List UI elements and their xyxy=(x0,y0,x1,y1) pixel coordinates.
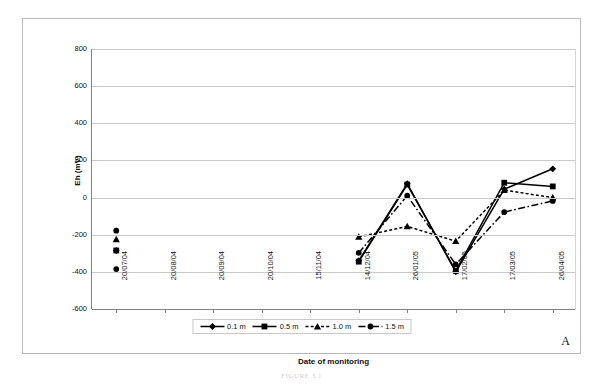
data-point-square xyxy=(404,182,410,188)
legend-swatch-circle xyxy=(357,322,383,331)
data-point-diamond xyxy=(549,165,556,172)
x-tick-mark xyxy=(553,309,554,313)
data-point-triangle xyxy=(404,223,411,229)
data-point-square xyxy=(501,180,507,186)
x-tick-label: 17/03/05 xyxy=(508,251,517,315)
legend-label: 1.5 m xyxy=(385,322,404,331)
chart-legend: 0.1 m0.5 m1.0 m1.5 m xyxy=(192,319,411,334)
x-tick-mark xyxy=(456,309,457,313)
x-tick-label: 20/09/04 xyxy=(217,251,226,315)
x-tick-mark xyxy=(359,309,360,313)
y-tick-label: 400 xyxy=(23,118,87,127)
series-05m xyxy=(113,180,555,274)
legend-label: 1.0 m xyxy=(333,322,352,331)
legend-item: 0.1 m xyxy=(199,322,246,331)
gridline--200 xyxy=(92,235,575,236)
x-tick-label: 26/01/05 xyxy=(411,251,420,315)
y-tick-label: -600 xyxy=(23,304,87,313)
data-point-square xyxy=(113,248,119,254)
x-tick-label: 14/12/04 xyxy=(363,251,372,315)
legend-swatch-triangle xyxy=(305,322,331,331)
data-point-triangle xyxy=(314,323,321,329)
figure-container: Eh (mV) 8006004002000-200-400-600 20/07/… xyxy=(0,0,603,389)
x-tick-mark xyxy=(213,309,214,313)
gridline-400 xyxy=(92,123,575,124)
x-tick-label: 20/07/04 xyxy=(120,251,129,315)
data-point-circle xyxy=(550,198,556,204)
series-line xyxy=(359,196,553,265)
series-line xyxy=(359,183,553,271)
y-tick-label: 600 xyxy=(23,81,87,90)
data-point-circle xyxy=(356,250,362,256)
figure-caption: FIGURE 3.1 xyxy=(0,372,603,380)
x-axis-title: Date of monitoring xyxy=(91,357,576,366)
legend-item: 1.0 m xyxy=(305,322,352,331)
legend-swatch-square xyxy=(252,322,278,331)
y-tick-label: 800 xyxy=(23,44,87,53)
legend-label: 0.1 m xyxy=(227,322,246,331)
chart-frame: Eh (mV) 8006004002000-200-400-600 20/07/… xyxy=(22,18,581,354)
x-tick-label: 15/11/04 xyxy=(314,251,323,315)
legend-item: 0.5 m xyxy=(252,322,299,331)
data-point-square xyxy=(262,324,268,330)
data-point-circle xyxy=(113,228,119,234)
x-tick-mark xyxy=(116,309,117,313)
x-tick-mark xyxy=(165,309,166,313)
series-layer xyxy=(92,49,577,309)
x-tick-label: 20/10/04 xyxy=(266,251,275,315)
plot-area: 20/07/0420/08/0420/09/0420/10/0415/11/04… xyxy=(91,49,576,309)
gridline-200 xyxy=(92,160,575,161)
x-tick-mark xyxy=(310,309,311,313)
data-point-circle xyxy=(501,209,507,215)
data-point-triangle xyxy=(113,236,120,242)
gridline--400 xyxy=(92,272,575,273)
series-15m xyxy=(113,193,555,272)
data-point-circle xyxy=(453,262,459,268)
y-tick-label: 0 xyxy=(23,193,87,202)
data-point-circle xyxy=(367,324,373,330)
y-tick-label: 200 xyxy=(23,155,87,164)
legend-item: 1.5 m xyxy=(357,322,404,331)
data-point-square xyxy=(356,259,362,265)
x-tick-label: 17/02/05 xyxy=(460,251,469,315)
x-tick-label: 20/08/04 xyxy=(169,251,178,315)
y-tick-label: -400 xyxy=(23,267,87,276)
x-tick-mark xyxy=(504,309,505,313)
data-point-square xyxy=(550,184,556,190)
panel-label: A xyxy=(561,334,570,349)
x-tick-mark xyxy=(262,309,263,313)
x-tick-label: 26/04/05 xyxy=(557,251,566,315)
legend-label: 0.5 m xyxy=(280,322,299,331)
x-tick-mark xyxy=(407,309,408,313)
data-point-diamond xyxy=(209,323,216,330)
gridline-600 xyxy=(92,86,575,87)
gridline-800 xyxy=(92,49,575,50)
gridline-0 xyxy=(92,198,575,199)
series-01m xyxy=(113,165,556,275)
y-tick-label: -200 xyxy=(23,230,87,239)
legend-swatch-diamond xyxy=(199,322,225,331)
